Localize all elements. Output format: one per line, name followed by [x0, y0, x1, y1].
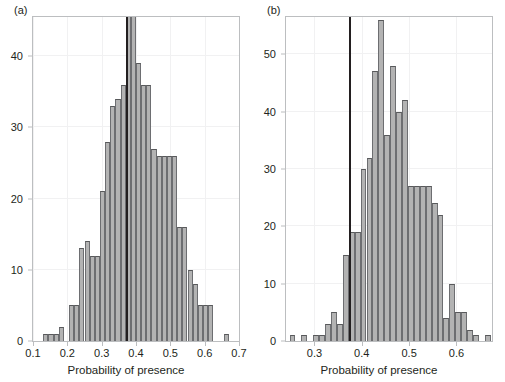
y-tick-label: 40	[253, 106, 276, 118]
plot-area-b	[285, 16, 493, 342]
y-tick-label: 30	[0, 121, 23, 133]
observed-value-line	[349, 17, 351, 341]
y-tick-label: 10	[0, 264, 23, 276]
x-axis-title: Probability of presence	[0, 364, 252, 376]
gridline-vertical	[456, 17, 457, 341]
y-tick-mark	[281, 283, 285, 284]
y-tick-label: 10	[253, 278, 276, 290]
x-tick-label: 0.2	[60, 347, 75, 359]
figure-histogram-pair: (a)0102030400.10.20.30.40.50.60.7Probabi…	[0, 0, 505, 382]
x-tick-mark	[67, 342, 68, 346]
x-tick-mark	[239, 342, 240, 346]
y-tick-label: 30	[253, 163, 276, 175]
y-tick-label: 0	[0, 335, 23, 347]
x-tick-mark	[409, 342, 410, 346]
panel-label-a: (a)	[14, 4, 27, 16]
gridline-horizontal	[286, 53, 492, 54]
y-tick-mark	[281, 111, 285, 112]
x-tick-label: 0.3	[94, 347, 109, 359]
y-tick-mark	[281, 54, 285, 55]
y-tick-label: 20	[0, 193, 23, 205]
x-tick-mark	[102, 342, 103, 346]
gridline-horizontal	[286, 111, 492, 112]
panel-label-b: (b)	[267, 4, 280, 16]
x-tick-mark	[362, 342, 363, 346]
x-tick-label: 0.5	[401, 347, 416, 359]
x-tick-mark	[170, 342, 171, 346]
y-tick-mark	[28, 127, 32, 128]
y-tick-label: 20	[253, 220, 276, 232]
x-axis-title: Probability of presence	[253, 364, 505, 376]
gridline-vertical	[239, 17, 240, 341]
gridline-vertical	[314, 17, 315, 341]
panel-b: (b)010203040500.30.40.50.6Probability of…	[253, 0, 505, 382]
x-tick-label: 0.4	[128, 347, 143, 359]
x-tick-label: 0.4	[354, 347, 369, 359]
y-tick-label: 0	[253, 335, 276, 347]
x-tick-label: 0.6	[197, 347, 212, 359]
y-tick-mark	[281, 168, 285, 169]
x-tick-label: 0.1	[25, 347, 40, 359]
observed-value-line	[126, 17, 128, 341]
x-tick-mark	[205, 342, 206, 346]
histogram-bar	[59, 327, 64, 341]
histogram-bar	[290, 335, 296, 341]
y-tick-label: 50	[253, 48, 276, 60]
x-tick-label: 0.3	[307, 347, 322, 359]
y-tick-mark	[28, 198, 32, 199]
y-tick-mark	[281, 341, 285, 342]
x-tick-label: 0.7	[231, 347, 246, 359]
gridline-vertical	[67, 17, 68, 341]
y-tick-mark	[28, 56, 32, 57]
histogram-bar	[473, 335, 479, 341]
histogram-bar	[208, 305, 213, 341]
gridline-vertical	[205, 17, 206, 341]
x-tick-mark	[456, 342, 457, 346]
histogram-bar	[301, 335, 307, 341]
panel-a: (a)0102030400.10.20.30.40.50.60.7Probabi…	[0, 0, 252, 382]
y-tick-label: 40	[0, 50, 23, 62]
x-tick-label: 0.5	[163, 347, 178, 359]
gridline-horizontal	[33, 55, 239, 56]
plot-area-a	[32, 16, 240, 342]
y-tick-mark	[281, 226, 285, 227]
y-tick-mark	[28, 341, 32, 342]
x-tick-mark	[314, 342, 315, 346]
x-tick-mark	[33, 342, 34, 346]
histogram-bar	[485, 335, 491, 341]
y-tick-mark	[28, 269, 32, 270]
x-tick-label: 0.6	[449, 347, 464, 359]
gridline-vertical	[33, 17, 34, 341]
x-tick-mark	[136, 342, 137, 346]
histogram-bar	[224, 334, 229, 341]
